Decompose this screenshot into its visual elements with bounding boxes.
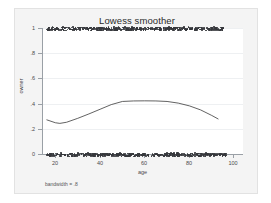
data-point xyxy=(68,156,70,158)
data-point xyxy=(184,155,186,157)
x-tick-label-20: 20 xyxy=(43,160,67,166)
data-point xyxy=(100,154,102,156)
data-point xyxy=(148,155,150,157)
data-point xyxy=(124,155,126,157)
data-point xyxy=(56,154,58,156)
data-point xyxy=(104,155,106,157)
x-tick-label-40: 40 xyxy=(88,160,112,166)
x-axis-title: age xyxy=(42,169,243,175)
lowess-curve xyxy=(42,28,243,154)
data-point xyxy=(214,154,216,156)
data-point xyxy=(94,156,96,158)
y-tick-label-08: .8 xyxy=(15,50,35,56)
data-point xyxy=(154,155,156,157)
y-tick-label-0: 0 xyxy=(15,151,35,157)
data-point xyxy=(137,155,139,157)
x-tick-label-80: 80 xyxy=(177,160,201,166)
data-point xyxy=(53,155,55,157)
data-point xyxy=(117,155,119,157)
data-point xyxy=(205,154,207,156)
y-tick-label-1: 1 xyxy=(15,25,35,31)
data-point xyxy=(157,154,159,156)
y-axis-title: owner xyxy=(18,66,24,106)
x-tick-label-100: 100 xyxy=(221,160,245,166)
page-title: Lowess smoother xyxy=(15,15,259,26)
data-point xyxy=(115,155,117,157)
graph-region: Lowess smoother 1 .8 .6 .4 .2 0 20 40 60… xyxy=(14,8,258,194)
data-point xyxy=(126,155,128,157)
y-tick-mark-0 xyxy=(38,154,42,155)
data-point xyxy=(174,154,176,156)
x-tick-label-60: 60 xyxy=(132,160,156,166)
data-point xyxy=(130,154,132,156)
data-point xyxy=(169,154,171,156)
data-point xyxy=(111,155,113,157)
data-point xyxy=(176,154,178,156)
x-tick-mark-100 xyxy=(233,154,234,158)
data-point xyxy=(141,154,143,156)
data-point xyxy=(199,155,201,157)
y-tick-label-02: .2 xyxy=(15,126,35,132)
data-point xyxy=(222,154,224,156)
bandwidth-annotation: bandwidth = .8 xyxy=(45,181,78,187)
data-point xyxy=(179,154,181,156)
data-point xyxy=(198,155,200,157)
data-point xyxy=(121,155,123,157)
data-point xyxy=(134,155,136,157)
data-point xyxy=(49,155,51,157)
